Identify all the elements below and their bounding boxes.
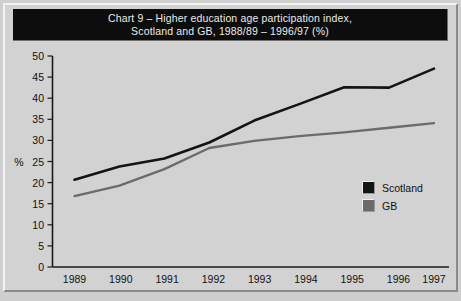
y-tick-label-45: 45 [32, 71, 44, 83]
plot-area: 50 45 40 35 30 25 20 15 10 5 0 % 1989 19… [0, 0, 461, 301]
y-tick-label-25: 25 [32, 156, 44, 168]
x-axis-tick-labels: 1989 1990 1991 1992 1993 1994 1995 1996 … [63, 273, 446, 285]
legend-swatch-scotland [362, 181, 375, 194]
x-tick-label-1994: 1994 [294, 273, 318, 285]
chart-legend: Scotland GB [362, 181, 423, 212]
y-axis-tick-labels: 50 45 40 35 30 25 20 15 10 5 0 [32, 50, 44, 273]
caption-strip [0, 294, 461, 301]
legend-label-scotland: Scotland [382, 182, 423, 194]
x-tick-label-1989: 1989 [63, 273, 87, 285]
series-line-scotland [75, 69, 435, 180]
chart-figure: Chart 9 – Higher education age participa… [0, 0, 461, 301]
y-tick-label-0: 0 [38, 261, 44, 273]
x-tick-label-1990: 1990 [109, 273, 133, 285]
y-tick-label-15: 15 [32, 198, 44, 210]
x-tick-label-1993: 1993 [248, 273, 272, 285]
legend-label-gb: GB [382, 200, 397, 212]
x-tick-label-1996: 1996 [387, 273, 411, 285]
y-axis-title: % [14, 156, 23, 168]
y-tick-label-5: 5 [38, 240, 44, 252]
legend-item-scotland: Scotland [362, 181, 423, 194]
x-tick-label-1997: 1997 [422, 273, 446, 285]
x-tick-label-1995: 1995 [341, 273, 365, 285]
x-tick-label-1992: 1992 [202, 273, 226, 285]
y-tick-label-30: 30 [32, 134, 44, 146]
x-tick-label-1991: 1991 [155, 273, 179, 285]
legend-item-gb: GB [362, 199, 423, 212]
y-tick-label-40: 40 [32, 92, 44, 104]
y-tick-label-35: 35 [32, 113, 44, 125]
y-tick-label-10: 10 [32, 219, 44, 231]
legend-swatch-gb [362, 199, 375, 212]
y-tick-label-50: 50 [32, 50, 44, 62]
y-tick-label-20: 20 [32, 177, 44, 189]
